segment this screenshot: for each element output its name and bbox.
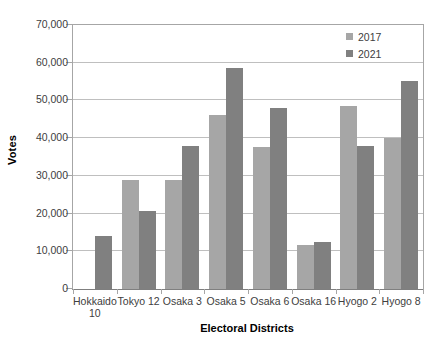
bar-2021[interactable]: [182, 146, 199, 289]
y-tick-label: 20,000: [12, 207, 68, 219]
y-tick-label: 50,000: [12, 93, 68, 105]
bar-group: [253, 25, 287, 289]
bar-2021[interactable]: [357, 146, 374, 289]
y-tick-label: 0: [12, 282, 68, 294]
bar-2017[interactable]: [122, 180, 139, 289]
x-tick-mark: [204, 289, 205, 294]
x-tick-mark: [248, 289, 249, 294]
x-tick-label: Hyogo 8: [373, 295, 429, 307]
bar-group: [209, 25, 243, 289]
bar-2017[interactable]: [209, 115, 226, 289]
bar-group: [122, 25, 156, 289]
legend-swatch-icon-2021: [346, 50, 353, 57]
bar-2021[interactable]: [270, 108, 287, 289]
legend-label-2021: 2021: [358, 48, 381, 60]
x-tick-mark: [73, 289, 74, 294]
x-tick-mark: [379, 289, 380, 294]
bar-group: [384, 25, 418, 289]
legend-label-2017: 2017: [358, 31, 381, 43]
chart-legend: 2017 2021: [346, 28, 408, 62]
bar-group: [165, 25, 199, 289]
bar-2017[interactable]: [165, 180, 182, 289]
bar-2021[interactable]: [95, 236, 112, 289]
x-tick-mark: [117, 289, 118, 294]
bar-2017[interactable]: [253, 147, 270, 289]
y-tick-label: 60,000: [12, 56, 68, 68]
y-tick-label: 30,000: [12, 169, 68, 181]
bar-2021[interactable]: [226, 68, 243, 289]
legend-item-2017[interactable]: 2017: [346, 28, 408, 45]
bar-2017[interactable]: [297, 245, 314, 289]
bar-2017[interactable]: [340, 106, 357, 289]
x-tick-mark: [292, 289, 293, 294]
y-tick-label: 40,000: [12, 131, 68, 143]
bar-group: [78, 25, 112, 289]
legend-swatch-icon-2017: [346, 33, 353, 40]
bar-group: [340, 25, 374, 289]
bar-chart: Votes 010,00020,00030,00040,00050,00060,…: [0, 0, 436, 346]
legend-item-2021[interactable]: 2021: [346, 45, 408, 62]
y-tick-label: 10,000: [12, 244, 68, 256]
bar-group: [297, 25, 331, 289]
bars-layer: [73, 25, 423, 289]
bar-2021[interactable]: [401, 81, 418, 289]
x-tick-mark: [423, 289, 424, 294]
bar-2017[interactable]: [384, 138, 401, 289]
x-tick-mark: [161, 289, 162, 294]
bar-2021[interactable]: [314, 242, 331, 289]
y-tick-label: 70,000: [12, 18, 68, 30]
x-axis-title: Electoral Districts: [72, 322, 422, 334]
x-tick-mark: [336, 289, 337, 294]
bar-2021[interactable]: [139, 211, 156, 289]
